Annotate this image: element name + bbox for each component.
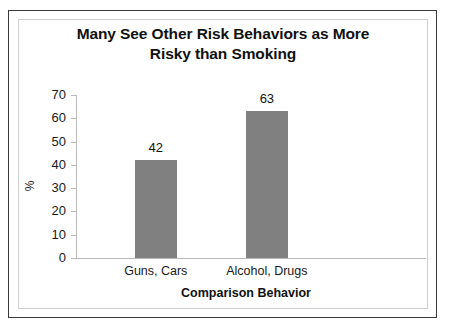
y-axis-title: % [22, 178, 38, 194]
y-axis-tick-label: 40 [52, 158, 66, 171]
bar-1 [135, 160, 177, 258]
bar-value-label-2: 63 [237, 92, 297, 106]
y-axis-tick-label: 50 [52, 135, 66, 148]
y-axis-tick-label: 30 [52, 181, 66, 194]
chart-title-line-1: Many See Other Risk Behaviors as More [24, 24, 422, 44]
bar-2 [246, 111, 288, 258]
x-axis-category-label-1: Guns, Cars [96, 264, 216, 278]
chart-figure: Many See Other Risk Behaviors as More Ri… [0, 0, 450, 330]
y-axis-tick-label: 60 [52, 111, 66, 124]
y-axis-tick-label: 0 [59, 251, 66, 264]
y-axis-tick-mark [71, 258, 76, 259]
chart-title: Many See Other Risk Behaviors as More Ri… [24, 24, 422, 64]
y-axis-tick-label: 10 [52, 228, 66, 241]
x-axis-title: Comparison Behavior [96, 286, 396, 300]
bar-value-label-1: 42 [126, 141, 186, 155]
y-axis-tick-label: 70 [52, 88, 66, 101]
y-axis-tick-label: 20 [52, 204, 66, 217]
x-axis-line [76, 258, 426, 259]
x-axis-category-label-2: Alcohol, Drugs [207, 264, 327, 278]
chart-title-line-2: Risky than Smoking [24, 44, 422, 64]
